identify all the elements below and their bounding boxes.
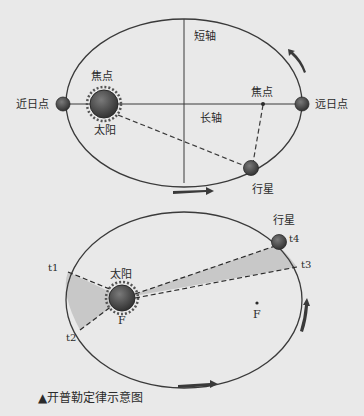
t1-label: t1 — [48, 262, 58, 273]
right-focus-point — [261, 102, 265, 106]
empty-focus-label: F — [253, 308, 261, 321]
perihelion-label: 近日点 — [16, 98, 49, 111]
bottom-orbit-diagram: 太阳 F F 行星 t1 t2 t3 t4 — [48, 212, 311, 388]
minor-axis-label: 短轴 — [194, 29, 216, 43]
sun-label: 太阳 — [94, 124, 116, 137]
right-focus-label: 焦点 — [251, 86, 273, 99]
t3-label: t3 — [301, 259, 311, 270]
direction-arrow-icon — [288, 49, 306, 73]
sun-icon — [106, 282, 138, 314]
t4-label: t4 — [289, 233, 299, 244]
planet-label: 行星 — [252, 183, 274, 196]
sun-label: 太阳 — [110, 268, 132, 281]
empty-focus-point — [255, 301, 258, 304]
perihelion-body-icon — [56, 97, 70, 111]
planet-icon — [244, 161, 259, 176]
direction-arrow-icon — [173, 187, 214, 195]
planet-icon — [272, 235, 287, 250]
sun-focus-label: F — [118, 314, 126, 327]
planet-label: 行星 — [273, 214, 295, 227]
kepler-law-diagram: 短轴 长轴 焦点 焦点 太阳 近日点 远日点 行星 — [0, 0, 364, 416]
focus-planet-dashed-line — [253, 105, 263, 163]
left-focus-label: 焦点 — [91, 70, 113, 83]
major-axis-label: 长轴 — [200, 111, 222, 125]
aphelion-label: 远日点 — [315, 98, 348, 111]
figure-caption: ▲开普勒定律示意图 — [38, 388, 143, 405]
aphelion-body-icon — [295, 97, 309, 111]
top-orbit-diagram: 短轴 长轴 焦点 焦点 太阳 近日点 远日点 行星 — [16, 19, 348, 196]
sun-icon — [87, 87, 121, 121]
t2-label: t2 — [66, 332, 76, 343]
